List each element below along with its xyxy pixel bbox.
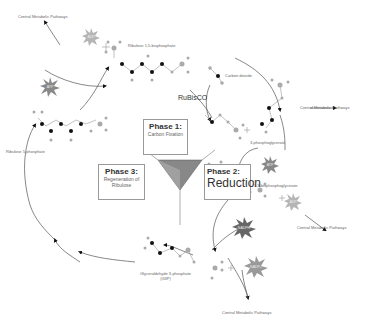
phase-3-box: Phase 3: Regeneration of Ribulose bbox=[98, 164, 145, 200]
ru5p-molecule bbox=[33, 111, 108, 142]
label-ru5p: Ribulose 5-phosphate bbox=[6, 149, 45, 154]
phase-2-subtitle: Reduction bbox=[207, 176, 250, 190]
label-g3p: Glyceraldehyde 3-phosphate (G3P) bbox=[128, 271, 203, 281]
calvin-cycle-diagram: Central Metabolic Pathways Ribulose 1,5-… bbox=[0, 0, 365, 330]
phase-3-title: Phase 3: bbox=[99, 167, 144, 176]
label-cmp-top-left: Central Metabolic Pathways bbox=[18, 14, 68, 19]
phase-1-subtitle: Carbon Fixation bbox=[144, 131, 187, 137]
nadp-label: NADP+ bbox=[247, 265, 265, 269]
phase-2-box: Phase 2: Reduction bbox=[204, 164, 251, 200]
label-cmp-right-top: Central Metabolic Pathways bbox=[300, 105, 350, 110]
adp-top-label: ADP bbox=[85, 35, 97, 39]
3pga-molecule-b bbox=[205, 114, 245, 140]
atp-left-label: ATP bbox=[44, 85, 56, 89]
label-3pga: 3-phosphoglycerate bbox=[250, 140, 285, 145]
phosphate-molecule bbox=[211, 261, 224, 280]
label-rubp: Ribulose 1,5-bisphosphate bbox=[128, 43, 175, 48]
label-cmp-bottom: Central Metabolic Pathways bbox=[222, 310, 272, 315]
3pga-molecule-a bbox=[260, 79, 290, 134]
label-co2: Carbon dioxide bbox=[225, 73, 252, 78]
phase-3-subtitle: Regeneration of Ribulose bbox=[99, 176, 144, 188]
g3p-molecule bbox=[144, 237, 196, 264]
phase-1-title: Phase 1: bbox=[144, 122, 187, 131]
enzyme-label-rubisco: RuBisCO bbox=[178, 94, 207, 101]
phase-1-box: Phase 1: Carbon Fixation bbox=[143, 119, 188, 155]
label-g3p-line2: (G3P) bbox=[160, 276, 171, 281]
plus-signs bbox=[102, 43, 285, 271]
nadph-label: NADPH bbox=[235, 226, 253, 230]
adp-right-label: ADP bbox=[287, 200, 299, 204]
phase-2-title: Phase 2: bbox=[207, 167, 250, 176]
co2-molecule bbox=[208, 66, 224, 85]
atp-right-label: ATP bbox=[264, 163, 276, 167]
label-cmp-right-mid: Central Metabolic Pathways bbox=[297, 225, 347, 230]
